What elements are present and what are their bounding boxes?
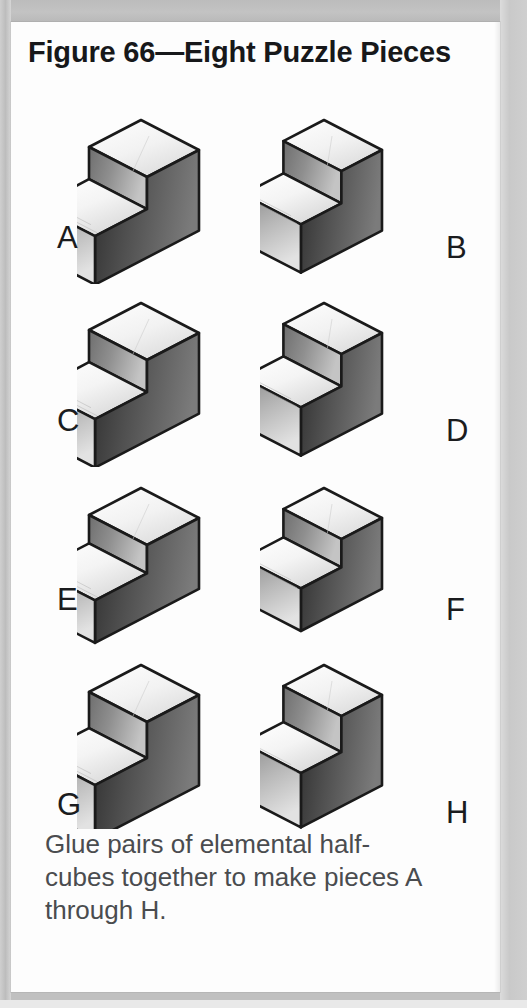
- piece-label-g: G: [57, 789, 81, 820]
- piece-label-f: F: [446, 594, 465, 625]
- puzzle-piece-h: H: [256, 649, 500, 829]
- scan-edge-right: [500, 0, 527, 1008]
- puzzle-piece-b: B: [256, 104, 500, 284]
- figure-title: Figure 66—Eight Puzzle Pieces: [28, 36, 451, 69]
- scan-edge-top: [0, 0, 527, 22]
- isometric-step-block-icon: [77, 472, 245, 652]
- puzzle-piece-d: D: [256, 287, 500, 467]
- scanned-page-canvas: Figure 66—Eight Puzzle Pieces: [0, 0, 527, 1008]
- piece-label-a: A: [57, 222, 78, 253]
- piece-label-e: E: [57, 584, 78, 615]
- puzzle-piece-e: E: [11, 472, 255, 652]
- isometric-step-block-icon: [77, 287, 245, 467]
- isometric-step-block-icon: [260, 287, 428, 467]
- isometric-step-block-icon: [77, 649, 245, 829]
- isometric-step-block-icon: [77, 104, 245, 284]
- scan-edge-bottom: [0, 1000, 527, 1008]
- figure-page: Figure 66—Eight Puzzle Pieces: [11, 22, 500, 992]
- caption-line: through H.: [45, 894, 465, 927]
- piece-label-h: H: [446, 797, 468, 828]
- caption-line: cubes together to make pieces A: [45, 861, 465, 894]
- puzzle-piece-g: G: [11, 649, 255, 829]
- piece-label-b: B: [446, 232, 467, 263]
- isometric-step-block-icon: [260, 649, 428, 829]
- piece-label-d: D: [446, 415, 468, 446]
- piece-label-c: C: [57, 405, 79, 436]
- puzzle-piece-a: A: [11, 104, 255, 284]
- puzzle-piece-grid: A: [11, 104, 500, 822]
- puzzle-piece-f: F: [256, 472, 500, 652]
- figure-caption: Glue pairs of elemental half-cubes toget…: [45, 828, 465, 927]
- puzzle-piece-c: C: [11, 287, 255, 467]
- isometric-step-block-icon: [260, 104, 428, 284]
- scan-edge-left: [0, 0, 11, 1008]
- isometric-step-block-icon: [260, 472, 428, 652]
- caption-line: Glue pairs of elemental half-: [45, 828, 465, 861]
